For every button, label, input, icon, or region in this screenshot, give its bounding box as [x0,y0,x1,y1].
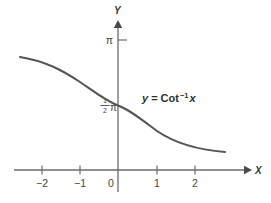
equation-argument: x [188,92,196,104]
equation-variable: y [141,92,149,104]
x-tick-label-minus2: −2 [36,177,48,189]
half-pi-denominator: 2 [103,107,107,114]
equation-function-name: Cot [161,92,180,104]
y-axis-label: Y [114,5,122,16]
x-axis-arrow-icon [244,166,252,174]
x-tick-label-zero: 0 [108,177,114,189]
x-axis-label: X [254,165,263,176]
y-tick-label-pi: π [106,34,113,46]
equation-label: y=Cot−1x [141,91,196,104]
y-tick-label-half-pi: 1 2 π [101,97,118,114]
x-tick-label-plus2: 2 [192,177,198,189]
inverse-cotangent-figure: −2 −1 0 1 2 π 1 2 π X Y y=Cot−1x [0,0,271,203]
x-tick-label-plus1: 1 [154,177,160,189]
graph-canvas: −2 −1 0 1 2 π 1 2 π X Y y=Cot−1x [0,0,271,203]
equation-equals-sign: = [151,92,157,104]
equation-exponent: −1 [180,91,189,100]
x-tick-label-minus1: −1 [74,177,86,189]
inverse-cotangent-curve [20,57,225,152]
y-axis-arrow-icon [114,20,122,28]
